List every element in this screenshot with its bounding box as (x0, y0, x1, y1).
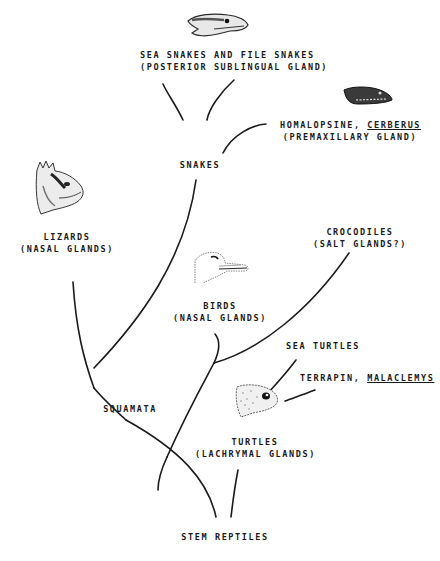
node-squamata: SQUAMATA (90, 403, 170, 415)
gland-label: (SALT GLANDS?) (310, 238, 410, 250)
taxon-homalopsine: HOMALOPSINE, CERBERUS (PREMAXILLARY GLAN… (280, 119, 420, 143)
branch-birds (214, 334, 219, 363)
branch-sea-snakes-right (207, 80, 234, 120)
node-label: SNAKES (180, 160, 220, 170)
taxon-sea-snakes: SEA SNAKES AND FILE SNAKES (POSTERIOR SU… (140, 49, 300, 73)
root-label: STEM REPTILES (181, 532, 268, 542)
root-stem-reptiles: STEM REPTILES (170, 531, 280, 543)
taxon-label: SEA SNAKES AND FILE SNAKES (140, 49, 300, 61)
taxon-label: TERRAPIN, (300, 373, 367, 383)
node-snakes: SNAKES (170, 159, 230, 171)
gland-label: (LACHRYMAL GLANDS) (195, 448, 315, 460)
genus-label: CERBERUS (367, 120, 421, 130)
taxon-label: TURTLES (195, 436, 315, 448)
taxon-birds: BIRDS (NASAL GLANDS) (165, 300, 275, 324)
phylogeny-diagram: SEA SNAKES AND FILE SNAKES (POSTERIOR SU… (0, 0, 440, 561)
branch-stem-left (126, 420, 216, 517)
taxon-turtles: TURTLES (LACHRYMAL GLANDS) (195, 436, 315, 460)
branch-sea-snakes-left (163, 84, 183, 120)
branch-homalopsine (223, 124, 266, 153)
genus-label: MALACLEMYS (367, 373, 434, 383)
taxon-label: BIRDS (165, 300, 275, 312)
taxon-sea-turtles: SEA TURTLES (278, 340, 368, 352)
snake-head-icon (184, 11, 250, 39)
taxon-crocodiles: CROCODILES (SALT GLANDS?) (310, 226, 410, 250)
turtle-head-icon (233, 381, 281, 423)
taxon-label: CROCODILES (310, 226, 410, 238)
branch-lizards (73, 282, 94, 388)
taxon-label: LIZARDS (12, 231, 122, 243)
node-label: SQUAMATA (103, 404, 157, 414)
branch-snakes-stem (94, 180, 196, 368)
branch-archosaur-base (158, 457, 167, 490)
taxon-terrapin: TERRAPIN, MALACLEMYS (300, 372, 430, 384)
gland-label: (NASAL GLANDS) (12, 243, 122, 255)
branch-terrapin (285, 390, 315, 401)
snake-head-icon (342, 84, 394, 108)
bird-head-icon (191, 249, 251, 287)
iguana-head-icon (31, 158, 91, 222)
gland-label: (PREMAXILLARY GLAND) (280, 131, 420, 143)
gland-label: (POSTERIOR SUBLINGUAL GLAND) (140, 61, 300, 73)
branch-turtles-stem (231, 470, 238, 517)
gland-label: (NASAL GLANDS) (165, 312, 275, 324)
taxon-label: HOMALOPSINE, (280, 120, 367, 130)
taxon-lizards: LIZARDS (NASAL GLANDS) (12, 231, 122, 255)
taxon-label: SEA TURTLES (286, 341, 360, 351)
